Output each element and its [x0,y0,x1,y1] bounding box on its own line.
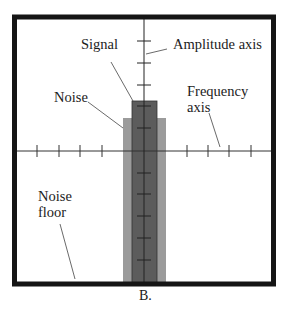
figure-caption: B. [139,288,152,304]
noise-floor-label-line2: floor [38,204,66,220]
amplitude-axis-label: Amplitude axis [173,36,262,52]
noise-floor-label-line1: Noise [38,188,72,204]
signal-label: Signal [81,36,118,52]
frequency-axis-label-line2: axis [187,99,210,115]
noise-label: Noise [54,89,88,105]
frequency-axis-label-line1: Frequency [187,83,248,99]
spectrum-diagram: Signal Amplitude axis Noise Frequency ax… [0,0,283,311]
